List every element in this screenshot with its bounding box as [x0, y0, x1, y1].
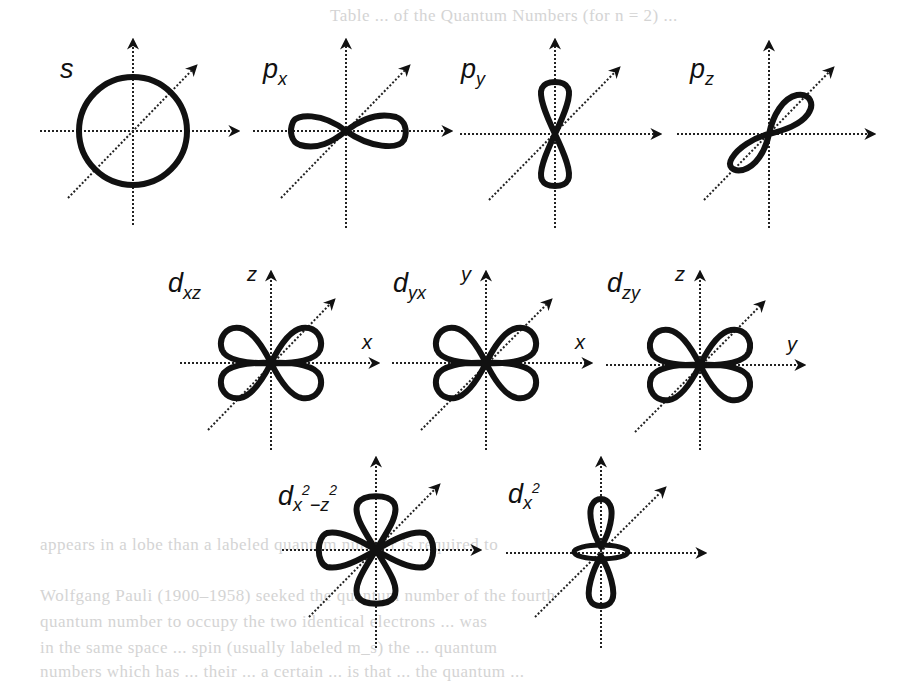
- axis-label-horizontal: y: [785, 333, 798, 355]
- cloverleaf-lobes: [221, 328, 321, 398]
- orbital-label-py: py: [460, 54, 486, 89]
- cloverleaf-lobes: [436, 328, 536, 398]
- orbital-s: s: [40, 40, 238, 225]
- axis-label-horizontal: x: [361, 331, 373, 353]
- orbital-py: py: [460, 40, 660, 228]
- axis-label-vertical: y: [459, 263, 472, 285]
- orbital-dx2: dx2: [506, 458, 705, 648]
- dumbbell-lobes: [291, 115, 406, 146]
- axis-label-horizontal: x: [574, 331, 586, 353]
- orbital-label-pz: pz: [689, 54, 714, 89]
- orbital-label-dxz: dxz: [168, 268, 201, 303]
- orbital-label-px: px: [262, 54, 288, 89]
- orbital-dxz: dxz z x: [168, 263, 378, 450]
- orbital-px: px: [253, 40, 451, 228]
- orbital-dx2-z2: dx2−z2: [278, 458, 480, 648]
- orbital-label-dyx: dyx: [393, 268, 427, 303]
- axis-label-vertical: z: [246, 263, 257, 285]
- orbital-label-dx2: dx2: [508, 479, 540, 513]
- orbital-label-dzy: dzy: [607, 268, 641, 303]
- orbital-label-s: s: [60, 54, 74, 84]
- orbital-label-dx2-z2: dx2−z2: [278, 481, 337, 515]
- orbital-pz: pz: [677, 42, 874, 228]
- dumbbell-lobes: [730, 95, 811, 171]
- orbital-dzy: dzy z y: [606, 263, 804, 450]
- orbital-dyx: dyx y x: [392, 263, 591, 450]
- axis-label-vertical: z: [674, 263, 685, 285]
